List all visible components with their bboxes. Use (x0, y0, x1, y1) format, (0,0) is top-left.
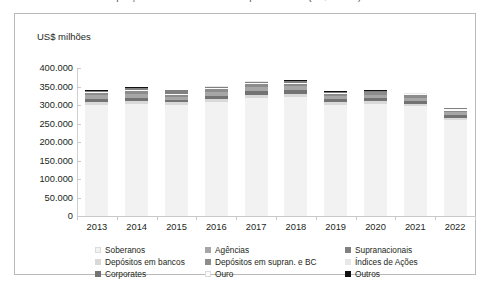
y-axis-tick-mark (77, 179, 81, 180)
legend-swatch-icon (205, 271, 211, 277)
x-axis-tick-mark (77, 216, 78, 220)
y-axis-tick-mark (77, 87, 81, 88)
legend-label: Soberanos (105, 245, 145, 255)
bar-2020[interactable] (364, 90, 387, 216)
legend-label: Depósitos em bancos (105, 257, 185, 267)
y-axis-tick-label: 0 (27, 211, 73, 221)
x-axis-tick-mark (395, 216, 396, 220)
x-axis-tick-label-2014: 2014 (117, 222, 157, 232)
x-axis-tick-mark (356, 216, 357, 220)
legend-item[interactable]: Depósitos em supran. e BC (205, 257, 316, 267)
bar-2018[interactable] (284, 80, 307, 216)
caption-text: Gráfico — Composição das reservas intern… (60, 0, 361, 2)
legend-label: Depósitos em supran. e BC (215, 257, 316, 267)
bar-segment[interactable] (324, 105, 347, 216)
bar-2022[interactable] (444, 108, 467, 216)
bar-segment[interactable] (284, 97, 307, 216)
legend-swatch-icon (95, 247, 101, 253)
legend-item[interactable]: Outros (345, 269, 380, 279)
y-axis-tick-label: 150.000 (27, 156, 73, 166)
x-axis-tick-mark (435, 216, 436, 220)
y-axis-tick-label: 400.000 (27, 63, 73, 73)
legend-item[interactable]: Supranacionais (345, 245, 412, 255)
y-axis-tick-label: 300.000 (27, 100, 73, 110)
legend-swatch-icon (345, 259, 351, 265)
legend-swatch-icon (345, 247, 351, 253)
legend-item[interactable]: Corporates (95, 269, 146, 279)
y-axis-tick-mark (77, 105, 81, 106)
x-axis-tick-label-2018: 2018 (276, 222, 316, 232)
legend-swatch-icon (205, 247, 211, 253)
bar-2019[interactable] (324, 91, 347, 216)
x-axis-tick-label-2020: 2020 (356, 222, 396, 232)
legend-label: Corporates (105, 269, 146, 279)
bar-2014[interactable] (125, 87, 148, 216)
bar-2013[interactable] (85, 90, 108, 216)
y-axis-tick-mark (77, 68, 81, 69)
clipped-caption-strip: Gráfico — Composição das reservas intern… (0, 0, 492, 9)
bar-segment[interactable] (245, 98, 268, 216)
chart-frame: US$ milhões 400.000350.000300.000250.000… (14, 13, 476, 275)
bar-segment[interactable] (205, 102, 228, 216)
legend-swatch-icon (345, 271, 351, 277)
legend-item[interactable]: Agências (205, 245, 249, 255)
legend-label: Outros (355, 269, 380, 279)
bar-segment[interactable] (364, 104, 387, 216)
x-axis-tick-label-2019: 2019 (316, 222, 356, 232)
legend-label: Agências (215, 245, 249, 255)
bar-segment[interactable] (165, 105, 188, 216)
bar-2017[interactable] (245, 81, 268, 216)
x-axis-tick-mark (196, 216, 197, 220)
y-axis-tick-label: 100.000 (27, 174, 73, 184)
y-axis-tick-labels: 400.000350.000300.000250.000200.000150.0… (25, 14, 73, 289)
legend-item[interactable]: Depósitos em bancos (95, 257, 185, 267)
bar-segment[interactable] (85, 105, 108, 216)
legend-swatch-icon (95, 259, 101, 265)
legend-item[interactable]: Ouro (205, 269, 233, 279)
x-axis-tick-label-2016: 2016 (196, 222, 236, 232)
y-axis-tick-label: 250.000 (27, 119, 73, 129)
x-axis-tick-mark (316, 216, 317, 220)
legend-swatch-icon (95, 271, 101, 277)
y-axis-tick-label: 200.000 (27, 137, 73, 147)
x-axis-tick-mark (117, 216, 118, 220)
plot-area (77, 68, 475, 216)
x-axis-tick-label-2022: 2022 (435, 222, 475, 232)
bar-segment[interactable] (444, 120, 467, 216)
y-axis-tick-mark (77, 198, 81, 199)
legend-item[interactable]: Soberanos (95, 245, 145, 255)
x-axis-tick-mark (236, 216, 237, 220)
x-axis-tick-label-2021: 2021 (395, 222, 435, 232)
x-axis-tick-mark (276, 216, 277, 220)
legend-swatch-icon (205, 259, 211, 265)
bar-2016[interactable] (205, 86, 228, 216)
x-axis-tick-label-2013: 2013 (77, 222, 117, 232)
x-axis-tick-label-2015: 2015 (157, 222, 197, 232)
x-axis-tick-label-2017: 2017 (236, 222, 276, 232)
y-axis-tick-mark (77, 124, 81, 125)
y-axis-tick-label: 50.000 (27, 193, 73, 203)
y-axis-tick-label: 350.000 (27, 82, 73, 92)
bar-2021[interactable] (404, 93, 427, 216)
bar-segment[interactable] (404, 106, 427, 216)
legend-label: Ouro (215, 269, 233, 279)
y-axis-tick-mark (77, 142, 81, 143)
x-axis-tick-mark (157, 216, 158, 220)
bar-2015[interactable] (165, 89, 188, 216)
legend-item[interactable]: Índices de Ações (345, 257, 418, 267)
bar-segment[interactable] (125, 104, 148, 216)
legend-label: Índices de Ações (355, 257, 418, 267)
y-axis-tick-mark (77, 161, 81, 162)
legend-label: Supranacionais (355, 245, 412, 255)
x-axis-tick-mark (475, 216, 476, 220)
chart-legend: SoberanosDepósitos em bancosCorporatesAg… (77, 245, 477, 285)
